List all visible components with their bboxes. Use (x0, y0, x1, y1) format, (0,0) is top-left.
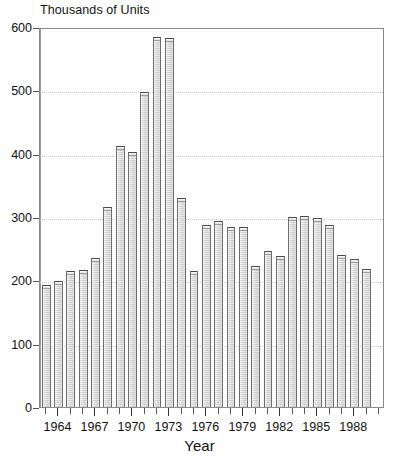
x-axis-tick (230, 408, 231, 414)
x-axis-tick-label: 1970 (118, 420, 146, 434)
bar-cap (363, 270, 370, 273)
bar-cap (141, 93, 148, 96)
y-axis-labels: 0100200300400500600 (0, 0, 32, 462)
bar (116, 146, 125, 407)
x-axis-tick (45, 408, 46, 414)
y-axis-title: Thousands of Units (40, 3, 150, 17)
bar (214, 221, 223, 407)
y-axis-tick (33, 281, 39, 282)
bar (177, 198, 186, 407)
y-axis-tick-label: 200 (2, 274, 32, 288)
bar (165, 38, 174, 407)
x-axis-tick (292, 408, 293, 414)
x-axis-tick-label: 1976 (191, 420, 219, 434)
bar-cap (215, 222, 222, 225)
bar-cap (252, 267, 259, 270)
bar-cap (265, 252, 272, 255)
x-axis-tick (218, 408, 219, 414)
x-axis-tick (181, 408, 182, 414)
bar-cap (154, 38, 161, 41)
x-axis-tick (82, 408, 83, 414)
gridline (40, 156, 383, 157)
x-axis-tick (156, 408, 157, 414)
gridline (40, 92, 383, 93)
bar-cap (166, 39, 173, 42)
x-axis-title: Year (0, 437, 399, 454)
bar-cap (351, 260, 358, 263)
bar (140, 92, 149, 407)
bar (337, 255, 346, 407)
y-axis-tick (33, 218, 39, 219)
x-axis-tick-major (353, 408, 354, 416)
y-axis-tick-label: 300 (2, 211, 32, 225)
x-axis-tick-major (242, 408, 243, 416)
bar (190, 271, 199, 407)
x-axis-tick (304, 408, 305, 414)
bar-cap (178, 199, 185, 202)
bar-cap (129, 153, 136, 156)
bar-cap (104, 208, 111, 211)
bar (103, 207, 112, 407)
x-axis-tick (255, 408, 256, 414)
x-axis-tick (267, 408, 268, 414)
bar (276, 256, 285, 407)
x-axis-tick (341, 408, 342, 414)
x-axis-tick (329, 408, 330, 414)
x-axis-tick (144, 408, 145, 414)
bar-cap (326, 226, 333, 229)
bar-cap (228, 228, 235, 231)
y-axis-tick-label: 400 (2, 148, 32, 162)
bar-cap (289, 218, 296, 221)
bar (300, 216, 309, 407)
x-axis-tick (193, 408, 194, 414)
bar (313, 218, 322, 407)
bar (227, 227, 236, 408)
x-axis-tick-major (316, 408, 317, 416)
plot-area (39, 28, 384, 408)
bar (42, 285, 51, 407)
bar (264, 251, 273, 407)
y-axis-tick (33, 345, 39, 346)
bar (79, 270, 88, 407)
y-axis-tick (33, 28, 39, 29)
x-axis-tick-major (94, 408, 95, 416)
bar (325, 225, 334, 407)
x-axis-tick (378, 408, 379, 414)
bar-cap (338, 256, 345, 259)
bar (91, 258, 100, 407)
y-axis-tick (33, 155, 39, 156)
y-axis-tick-label: 100 (2, 338, 32, 352)
x-axis-tick-label: 1964 (44, 420, 72, 434)
bar-cap (314, 219, 321, 222)
x-axis-tick-label: 1967 (81, 420, 109, 434)
bar-cap (67, 272, 74, 275)
bar (128, 152, 137, 407)
y-axis-tick (33, 91, 39, 92)
y-axis-tick-label: 500 (2, 84, 32, 98)
bar (239, 227, 248, 408)
x-axis-tick (70, 408, 71, 414)
bar (288, 217, 297, 407)
bar-cap (191, 272, 198, 275)
bar-cap (43, 286, 50, 289)
bar (251, 266, 260, 407)
chart-root: Thousands of Units 0100200300400500600 Y… (0, 0, 399, 462)
bar-cap (277, 257, 284, 260)
x-axis-tick-label: 1979 (228, 420, 256, 434)
y-axis-tick-label: 0 (2, 401, 32, 415)
bar-cap (240, 228, 247, 231)
bar-cap (117, 147, 124, 150)
x-axis-tick-major (205, 408, 206, 416)
x-axis-tick-major (57, 408, 58, 416)
x-axis-tick-major (279, 408, 280, 416)
bar (66, 271, 75, 407)
bar-cap (301, 217, 308, 220)
x-axis-tick-label: 1988 (339, 420, 367, 434)
bar (153, 37, 162, 408)
gridline (40, 219, 383, 220)
x-axis-tick-major (131, 408, 132, 416)
x-axis-tick (366, 408, 367, 414)
bar-cap (80, 271, 87, 274)
x-axis-tick (119, 408, 120, 414)
x-axis-tick-major (168, 408, 169, 416)
